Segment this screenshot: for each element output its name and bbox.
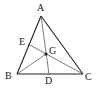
segment-ca bbox=[41, 16, 83, 74]
label-c: C bbox=[85, 71, 92, 82]
triangle-diagram: A E G B D C bbox=[0, 0, 98, 99]
point-g-marker bbox=[45, 53, 48, 56]
label-e: E bbox=[19, 36, 25, 47]
label-g: G bbox=[49, 45, 56, 56]
label-d: D bbox=[45, 75, 52, 86]
label-a: A bbox=[37, 2, 45, 13]
label-b: B bbox=[5, 70, 12, 81]
